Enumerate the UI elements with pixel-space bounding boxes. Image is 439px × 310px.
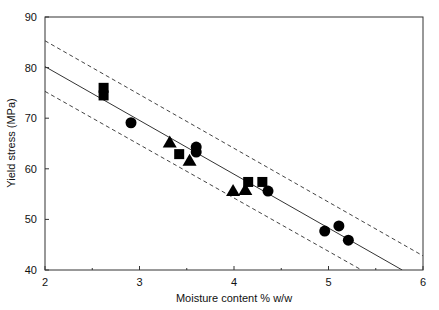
- fit-lines: [45, 41, 423, 270]
- square-marker: [257, 177, 267, 187]
- circle-marker: [125, 117, 136, 128]
- x-tick-label: 5: [325, 276, 331, 288]
- y-tick-label: 60: [25, 163, 37, 175]
- y-tick-label: 70: [25, 112, 37, 124]
- x-axis: 23456: [42, 266, 426, 288]
- y-tick-label: 40: [25, 264, 37, 276]
- y-tick-label: 50: [25, 213, 37, 225]
- y-tick-label: 90: [25, 11, 37, 23]
- circle-marker: [191, 147, 202, 158]
- square-marker: [174, 149, 184, 159]
- triangle-marker: [163, 135, 177, 147]
- triangle-marker: [226, 184, 240, 196]
- x-tick-label: 3: [136, 276, 142, 288]
- circle-marker: [333, 220, 344, 231]
- x-axis-title: Moisture content % w/w: [176, 292, 292, 304]
- upper-bound-line: [45, 41, 423, 256]
- circle-marker: [343, 235, 354, 246]
- y-tick-label: 80: [25, 62, 37, 74]
- circle-marker: [263, 186, 274, 197]
- square-marker: [99, 90, 109, 100]
- x-tick-label: 2: [42, 276, 48, 288]
- y-axis-title: Yield stress (MPa): [5, 98, 17, 187]
- lower-bound-line: [45, 91, 362, 270]
- x-tick-label: 4: [231, 276, 237, 288]
- plot-frame: [45, 17, 423, 270]
- x-tick-label: 6: [420, 276, 426, 288]
- scatter-chart: 23456 405060708090 Moisture content % w/…: [0, 0, 439, 310]
- circle-marker: [319, 226, 330, 237]
